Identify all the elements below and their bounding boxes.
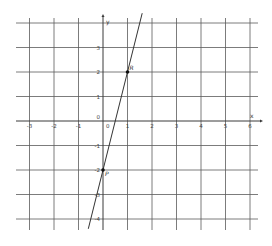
y-tick-label: 3 xyxy=(97,45,101,51)
y-axis-label: y xyxy=(106,18,110,26)
y-tick-label: -4 xyxy=(95,216,101,222)
point-label-r: R xyxy=(130,64,134,71)
x-tick-label: 5 xyxy=(224,123,228,129)
coordinate-plane: xy -3-2-1123456-4-3-2-112300 RP xyxy=(0,0,272,246)
y-tick-label: -1 xyxy=(95,143,100,149)
y-axis-arrow-icon xyxy=(102,14,105,17)
x-tick-label: -3 xyxy=(27,123,33,129)
x-tick-label: 3 xyxy=(175,123,179,129)
y-tick-label: 1 xyxy=(97,94,101,100)
x-tick-label: 4 xyxy=(199,123,203,129)
x-tick-label: 1 xyxy=(126,123,130,129)
axes: xy xyxy=(16,14,263,230)
x-axis-arrow-icon xyxy=(260,120,263,123)
x-tick-label: -1 xyxy=(76,123,81,129)
y-tick-label: 2 xyxy=(97,69,101,75)
x-tick-label: 6 xyxy=(248,123,252,129)
origin-x-label: 0 xyxy=(106,123,110,129)
x-tick-label: 2 xyxy=(150,123,154,129)
tick-labels: -3-2-1123456-4-3-2-112300 xyxy=(27,45,252,223)
x-tick-label: -2 xyxy=(51,123,56,129)
point-label-p: P xyxy=(105,170,109,177)
origin-y-label: 0 xyxy=(97,114,101,120)
y-tick-label: -2 xyxy=(95,167,100,173)
x-axis-label: x xyxy=(250,112,254,119)
